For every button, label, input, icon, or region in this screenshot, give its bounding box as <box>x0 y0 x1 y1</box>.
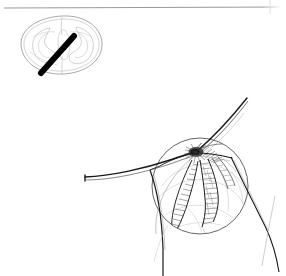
illustration-canvas <box>0 0 286 276</box>
figure-page <box>0 0 286 276</box>
page-background <box>0 0 286 276</box>
